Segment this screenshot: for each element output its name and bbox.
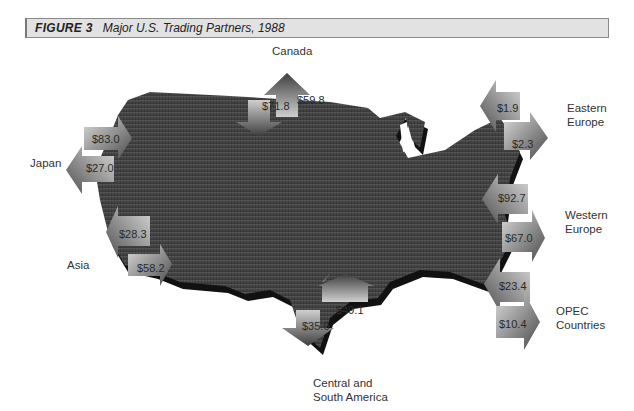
value-opec-import: $23.4 bbox=[499, 280, 527, 292]
region-label-japan: Japan bbox=[30, 156, 61, 170]
region-label-eeurope-line2: Europe bbox=[567, 115, 607, 129]
value-latam-import: $35.0 bbox=[302, 320, 330, 332]
us-map bbox=[0, 0, 634, 411]
region-label-weurope-line1: Western bbox=[565, 208, 608, 222]
region-label-opec: OPEC Countries bbox=[556, 304, 605, 332]
region-label-latam: Central and South America bbox=[313, 376, 388, 404]
region-label-eeurope-line1: Eastern bbox=[567, 101, 607, 115]
value-asia-import: $28.3 bbox=[119, 228, 147, 240]
value-weurope-import: $92.7 bbox=[498, 192, 526, 204]
region-label-weurope-line2: Europe bbox=[565, 222, 608, 236]
value-eeurope-import: $1.9 bbox=[497, 102, 518, 114]
value-japan-import: $83.0 bbox=[92, 133, 120, 145]
region-label-eastern-europe: Eastern Europe bbox=[567, 101, 607, 129]
value-eeurope-export: $2.3 bbox=[512, 138, 533, 150]
region-label-asia: Asia bbox=[67, 258, 89, 272]
region-label-opec-line2: Countries bbox=[556, 318, 605, 332]
value-opec-export: $10.4 bbox=[499, 318, 527, 330]
value-japan-export: $27.0 bbox=[86, 162, 114, 174]
value-weurope-export: $67.0 bbox=[505, 232, 533, 244]
region-label-latam-line2: South America bbox=[313, 390, 388, 404]
region-label-opec-line1: OPEC bbox=[556, 304, 605, 318]
value-canada-import: $71.8 bbox=[262, 100, 290, 112]
value-latam-export: $49.1 bbox=[336, 304, 364, 316]
region-label-canada: Canada bbox=[272, 44, 312, 58]
region-label-latam-line1: Central and bbox=[313, 376, 388, 390]
value-canada-export: $59.8 bbox=[297, 94, 325, 106]
region-label-western-europe: Western Europe bbox=[565, 208, 608, 236]
value-asia-export: $58.2 bbox=[137, 262, 165, 274]
